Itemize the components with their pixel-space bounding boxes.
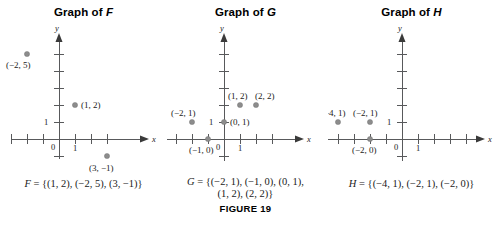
y-unit-label-g: 1: [209, 117, 213, 127]
x-axis-label-h: x: [487, 134, 492, 144]
panel-title-h-prefix: Graph of: [381, 6, 433, 18]
origin-label-h: 0: [394, 142, 398, 152]
figure-caption: FIGURE 19: [162, 203, 329, 214]
origin-label-f: 0: [51, 142, 55, 152]
graph-panel-f: Graph of F x y: [0, 0, 167, 210]
data-point-label-g-0: (−2, 1): [171, 108, 196, 118]
y-unit-label-h: 1: [387, 117, 391, 127]
relation-equation-f: F = {(1, 2), (−2, 5), (3, −1)}: [0, 178, 167, 190]
figure-19: Graph of F x y: [0, 0, 501, 228]
panel-title-g-variable: G: [267, 6, 276, 18]
panel-title-g: Graph of G: [162, 6, 329, 18]
data-point-label-h-0: (−4, 1): [328, 108, 346, 118]
y-axis-arrow-g: [221, 33, 228, 42]
data-point-f-1: [24, 51, 29, 56]
data-point-label-g-3: (1, 2): [228, 91, 248, 101]
origin-label-g: 0: [216, 142, 220, 152]
data-point-label-f-1: (−2, 5): [6, 60, 31, 70]
panel-title-f: Graph of F: [0, 6, 167, 18]
x-axis-label-g: x: [306, 134, 311, 144]
data-point-g-2: [221, 119, 226, 124]
y-axis-arrow-h: [399, 33, 406, 42]
data-point-label-g-1: (−1, 0): [189, 145, 214, 155]
relation-line-1-g: G = {(−2, 1), (−1, 0), (0, 1),: [162, 176, 329, 188]
panel-title-g-prefix: Graph of: [215, 6, 267, 18]
data-point-label-f-2: (3, −1): [89, 163, 114, 173]
x-unit-label-g: 1: [238, 143, 242, 153]
x-axis-label-f: x: [151, 134, 156, 144]
plot-area-f: x y 0: [0, 24, 167, 174]
y-axis-label-g: y: [219, 24, 224, 33]
data-point-g-1: [205, 136, 210, 141]
panel-title-f-prefix: Graph of: [54, 6, 106, 18]
relation-body-f: = {(1, 2), (−2, 5), (3, −1)}: [31, 178, 143, 189]
data-point-label-f-0: (1, 2): [81, 100, 101, 110]
x-axis-arrow-f: [140, 136, 149, 143]
data-point-f-2: [104, 153, 109, 158]
data-point-h-0: [335, 119, 340, 124]
relation-body-g-line2: (1, 2), (2, 2)}: [162, 188, 329, 200]
relation-equation-h: H = {(−4, 1), (−2, 1), (−2, 0)}: [328, 178, 495, 190]
coordinate-plane-h: x y: [328, 24, 501, 174]
y-axis-arrow-f: [56, 33, 63, 42]
plot-area-h: x y: [328, 24, 495, 174]
data-point-h-1: [367, 119, 372, 124]
relation-body-h: = {(−4, 1), (−2, 1), (−2, 0)}: [356, 178, 474, 189]
data-point-label-h-2: (−2, 0): [352, 145, 377, 155]
y-unit-label-f: 1: [44, 117, 48, 127]
data-point-label-h-1: (−2, 1): [353, 108, 378, 118]
coordinate-plane-f: x y 0: [0, 24, 167, 174]
data-point-label-g-2: (0, 1): [230, 117, 250, 127]
panel-title-h: Graph of H: [328, 6, 495, 18]
y-axis-label-h: y: [397, 24, 402, 33]
data-point-g-0: [189, 119, 194, 124]
graph-panel-h: Graph of H x y: [328, 0, 495, 210]
data-point-h-2: [367, 136, 372, 141]
data-point-f-0: [72, 102, 77, 107]
data-point-label-g-4: (2, 2): [255, 91, 275, 101]
data-point-g-4: [253, 102, 258, 107]
x-unit-label-f: 1: [73, 143, 77, 153]
panel-title-f-variable: F: [106, 6, 113, 18]
x-axis-arrow-h: [476, 136, 485, 143]
panel-title-h-variable: H: [433, 6, 441, 18]
plot-area-g: x y 0 1: [162, 24, 329, 174]
relation-body-g-line1: = {(−2, 1), (−1, 0), (0, 1),: [195, 176, 304, 187]
relation-equation-g: G = {(−2, 1), (−1, 0), (0, 1),(1, 2), (2…: [162, 176, 329, 200]
x-unit-label-h: 1: [416, 143, 420, 153]
data-point-g-3: [237, 102, 242, 107]
coordinate-plane-g: x y 0 1: [162, 24, 329, 174]
relation-variable-g: G: [187, 176, 195, 187]
graph-panel-g: Graph of G x y: [162, 0, 329, 210]
y-axis-label-f: y: [54, 24, 59, 33]
x-axis-arrow-g: [295, 136, 304, 143]
